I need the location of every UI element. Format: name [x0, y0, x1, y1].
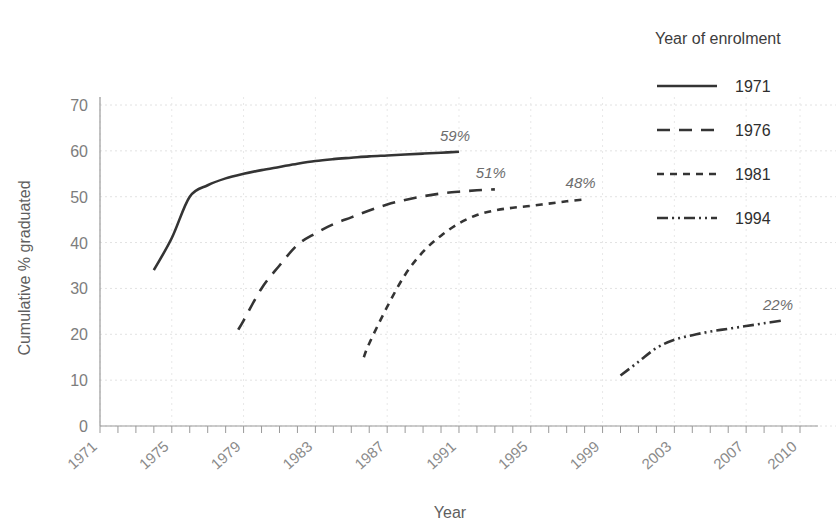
- chart-container: 010203040506070 197119751979198319871991…: [0, 0, 836, 532]
- y-axis-tick-labels: 010203040506070: [70, 97, 88, 435]
- line-chart: 010203040506070 197119751979198319871991…: [0, 0, 836, 532]
- series-line-1981: [364, 199, 585, 357]
- legend-item-1971[interactable]: 1971: [657, 78, 771, 95]
- y-axis-tick-label: 10: [70, 372, 88, 389]
- y-axis-tick-label: 60: [70, 143, 88, 160]
- series-end-label-1971: 59%: [440, 127, 470, 144]
- y-axis-tick-label: 70: [70, 97, 88, 114]
- legend-title: Year of enrolment: [655, 30, 781, 47]
- legend-label-1981: 1981: [735, 166, 771, 183]
- data-series: [154, 152, 782, 376]
- x-axis-tick-label: 1987: [351, 438, 387, 473]
- legend-label-1994: 1994: [735, 210, 771, 227]
- y-axis-tick-label: 20: [70, 326, 88, 343]
- series-end-label-1981: 48%: [566, 174, 596, 191]
- x-axis-tick-labels: 1971197519791983198719911995199920032007…: [64, 438, 800, 473]
- legend-label-1976: 1976: [735, 122, 771, 139]
- y-axis-tick-label: 30: [70, 280, 88, 297]
- y-axis-tick-label: 0: [79, 418, 88, 435]
- legend-item-1976[interactable]: 1976: [657, 122, 771, 139]
- y-axis-tick-label: 50: [70, 189, 88, 206]
- x-axis-tick-label: 1999: [566, 438, 602, 473]
- series-line-1994: [621, 321, 783, 376]
- series-end-label-1976: 51%: [476, 164, 506, 181]
- x-axis-tick-label: 1983: [279, 438, 315, 473]
- y-axis-title: Cumulative % graduated: [16, 180, 33, 355]
- x-axis-tick-label: 1975: [136, 438, 172, 473]
- x-axis-tick-label: 1995: [495, 438, 531, 473]
- x-axis-tick-label: 2007: [710, 438, 746, 473]
- series-line-1976: [238, 189, 495, 329]
- series-end-label-1994: 22%: [762, 296, 793, 313]
- x-axis-tick-label: 1979: [207, 438, 243, 473]
- series-line-1971: [154, 152, 459, 270]
- x-axis-tick-label: 2003: [638, 438, 674, 473]
- x-axis-tick-label: 1971: [64, 438, 100, 473]
- legend-label-1971: 1971: [735, 78, 771, 95]
- gridlines: [100, 97, 836, 426]
- legend-item-1981[interactable]: 1981: [657, 166, 771, 183]
- y-axis-tick-label: 40: [70, 235, 88, 252]
- x-axis-title: Year: [434, 504, 467, 521]
- x-axis-tick-label: 2010: [764, 438, 800, 473]
- x-axis-tick-label: 1991: [423, 438, 459, 473]
